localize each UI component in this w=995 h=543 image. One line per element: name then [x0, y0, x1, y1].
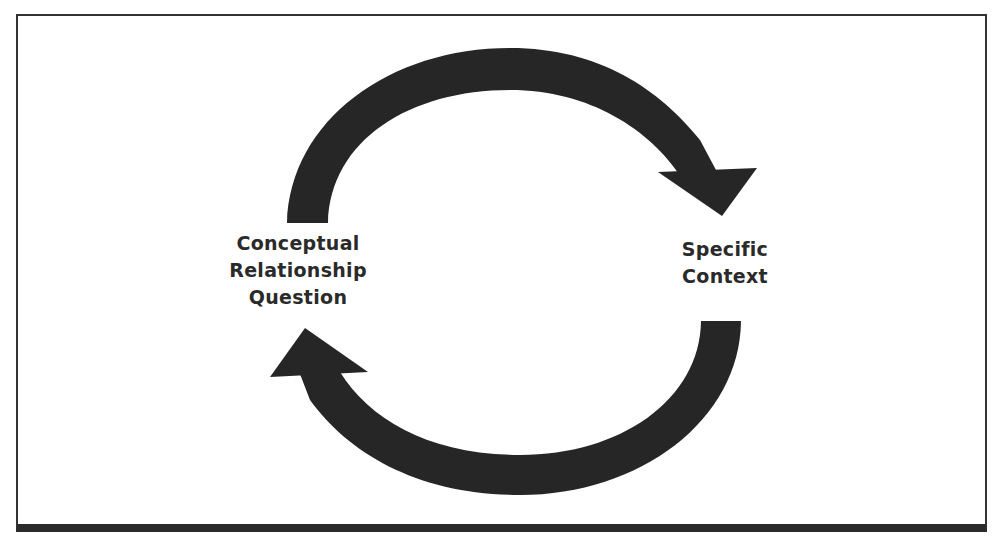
top-arrow-icon [287, 48, 757, 223]
node-left-line-1: Conceptual [218, 230, 378, 257]
node-right-line-1: Specific [655, 236, 795, 263]
node-specific-context: Specific Context [655, 236, 795, 290]
cycle-diagram [0, 0, 995, 543]
node-conceptual-relationship-question: Conceptual Relationship Question [218, 230, 378, 311]
bottom-arrow-icon [270, 321, 741, 495]
node-left-line-2: Relationship [218, 257, 378, 284]
node-left-line-3: Question [218, 284, 378, 311]
node-right-line-2: Context [655, 263, 795, 290]
